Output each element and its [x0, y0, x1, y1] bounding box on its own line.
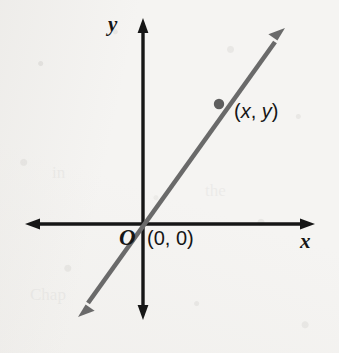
origin-coordinates-label: (0, 0): [147, 228, 194, 248]
point-variable-y: y: [262, 100, 272, 122]
point-coordinates-label: (x, y): [234, 101, 278, 121]
graph-canvas: [0, 0, 339, 353]
plotted-line-segment: [88, 42, 275, 303]
point-comma: ,: [251, 100, 262, 122]
x-axis-arrowhead-left: [25, 219, 40, 230]
point-variable-x: x: [241, 100, 251, 122]
point-close-paren: ): [272, 100, 279, 122]
point-open-paren: (: [234, 100, 241, 122]
x-axis-label: x: [300, 231, 311, 252]
plotted-line-arrowhead-upper-right: [268, 28, 285, 41]
x-axis-arrowhead-right: [300, 219, 315, 230]
plotted-line-arrowhead-lower-left: [78, 304, 95, 317]
y-axis-arrowhead-up: [138, 18, 149, 33]
graph-figure: Chap the in y x O (: [0, 0, 339, 353]
origin-letter-label: O: [119, 226, 136, 249]
point-marker-xy: [214, 99, 224, 109]
y-axis-label: y: [108, 14, 117, 35]
y-axis-arrowhead-down: [138, 305, 149, 320]
y-axis: [138, 18, 149, 320]
plotted-line: [78, 28, 285, 317]
